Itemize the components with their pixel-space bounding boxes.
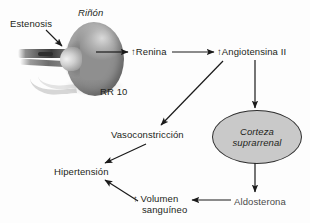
label-volumen-sanguineo-line2: sanguíneo	[142, 204, 187, 215]
label-corteza-line1: Corteza	[240, 126, 274, 137]
label-volumen-sanguineo-line1: ↑ Volumen	[133, 193, 178, 204]
label-vasoconstriccion: Vasoconstricción	[111, 129, 184, 140]
label-rr10: RR 10	[100, 86, 127, 97]
label-hipertension: Hipertensión	[54, 166, 109, 177]
label-rinon: Riñón	[78, 7, 103, 18]
label-aldosterona: Aldosterona	[234, 196, 286, 207]
node-corteza-suprarrenal: Corteza suprarrenal	[212, 110, 302, 164]
raas-flow-diagram: Estenosis Riñón RR 10 ↑Renina ↑Angiotens…	[0, 0, 310, 223]
stenosis-narrowing-graphic	[38, 52, 53, 56]
label-angiotensina-ii: ↑Angiotensina II	[217, 46, 286, 57]
label-renina: ↑Renina	[131, 46, 167, 57]
arrow-vasoconstriccion-to-hipertension	[105, 144, 146, 163]
arrow-angiotensina-to-vasoconstriccion	[161, 61, 223, 125]
label-estenosis: Estenosis	[10, 18, 52, 29]
kidney-hilum-graphic	[60, 47, 82, 71]
label-corteza-line2: suprarrenal	[232, 137, 281, 148]
